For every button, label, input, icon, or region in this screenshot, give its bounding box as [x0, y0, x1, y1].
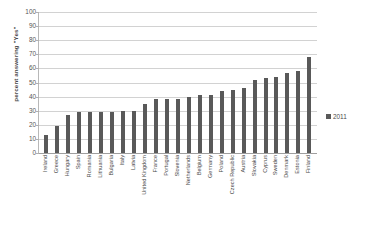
bar-slot: [74, 12, 85, 153]
bar: [44, 135, 48, 153]
x-label-slot: Slovenia: [171, 155, 182, 233]
x-label-slot: Austria: [237, 155, 248, 233]
x-axis-label: Cyprus: [262, 155, 268, 173]
bar: [209, 95, 213, 153]
x-label-slot: Cyprus: [259, 155, 270, 233]
bar-slot: [96, 12, 107, 153]
bar-slot: [304, 12, 315, 153]
x-axis-label: Lithuania: [97, 155, 103, 178]
bar: [296, 71, 300, 153]
bar-slot: [151, 12, 162, 153]
x-label-slot: Sweden: [270, 155, 281, 233]
x-label-slot: Romania: [84, 155, 95, 233]
x-label-slot: Lithuania: [95, 155, 106, 233]
bar-slot: [249, 12, 260, 153]
x-axis-label: United Kingdom: [141, 155, 147, 195]
x-label-slot: Ireland: [40, 155, 51, 233]
bar: [220, 91, 224, 153]
y-tick-100: 100: [25, 8, 36, 16]
y-tick-50: 50: [29, 79, 36, 87]
x-label-slot: Spain: [73, 155, 84, 233]
y-tick-10: 10: [29, 135, 36, 143]
y-tick-70: 70: [29, 50, 36, 58]
x-label-slot: Italy: [117, 155, 128, 233]
x-label-slot: Bulgaria: [106, 155, 117, 233]
x-axis-label: Sweden: [272, 155, 278, 175]
x-label-slot: Denmark: [281, 155, 292, 233]
bar-slot: [216, 12, 227, 153]
x-label-slot: France: [150, 155, 161, 233]
x-label-slot: Poland: [215, 155, 226, 233]
x-axis-label: Latvia: [130, 155, 136, 170]
bar-slot: [41, 12, 52, 153]
x-axis-label: Slovenia: [174, 155, 180, 176]
legend-label-2011: 2011: [333, 113, 347, 120]
bar-slot: [161, 12, 172, 153]
y-axis-tick-labels: 1009080706050403020100: [14, 8, 36, 153]
bar-slot: [140, 12, 151, 153]
bar-slot: [282, 12, 293, 153]
bar: [77, 112, 81, 153]
x-axis-label: Slovakia: [251, 155, 257, 176]
x-label-slot: Slovakia: [248, 155, 259, 233]
bar: [132, 111, 136, 153]
x-axis-label: Italy: [119, 155, 125, 165]
y-tick-80: 80: [29, 36, 36, 44]
y-tick-20: 20: [29, 121, 36, 129]
x-label-slot: Estonia: [292, 155, 303, 233]
bar: [154, 99, 158, 153]
bar-slot: [238, 12, 249, 153]
x-axis-label: Spain: [75, 155, 81, 169]
x-label-slot: Czech Republic: [226, 155, 237, 233]
bar-slot: [129, 12, 140, 153]
bar: [165, 99, 169, 153]
bar-slot: [118, 12, 129, 153]
x-axis-label: Poland: [218, 155, 224, 172]
x-axis-label: Belgium: [196, 155, 202, 175]
bar: [253, 80, 257, 153]
x-axis-label: Romania: [86, 155, 92, 177]
x-axis-label: Austria: [240, 155, 246, 172]
bar: [285, 73, 289, 153]
gridline-0: [39, 153, 317, 154]
bar-slot: [85, 12, 96, 153]
legend-swatch-2011: [326, 114, 331, 119]
x-label-slot: Hungary: [62, 155, 73, 233]
bar-chart: percent answering "Yes" 1009080706050403…: [0, 0, 368, 236]
bar: [55, 126, 59, 153]
bar-slot: [183, 12, 194, 153]
y-tickmark-0: [36, 153, 39, 154]
x-axis-label: Estonia: [294, 155, 300, 174]
x-axis-label: Portugal: [163, 155, 169, 176]
bar-slot: [260, 12, 271, 153]
x-axis-label: Czech Republic: [229, 155, 235, 194]
bar: [121, 111, 125, 153]
bar-slot: [227, 12, 238, 153]
x-axis-label: Germany: [207, 155, 213, 178]
x-axis-label: Greece: [53, 155, 59, 173]
x-label-slot: Finland: [303, 155, 314, 233]
y-tick-90: 90: [29, 22, 36, 30]
x-label-slot: United Kingdom: [139, 155, 150, 233]
x-axis-label: France: [152, 155, 158, 172]
bar: [307, 57, 311, 153]
bar-slot: [63, 12, 74, 153]
x-label-slot: Germany: [204, 155, 215, 233]
x-label-slot: Belgium: [193, 155, 204, 233]
x-label-slot: Latvia: [128, 155, 139, 233]
bar: [110, 112, 114, 153]
x-axis-category-labels: IrelandGreeceHungarySpainRomaniaLithuani…: [38, 155, 316, 233]
y-tick-60: 60: [29, 64, 36, 72]
bar: [242, 88, 246, 153]
x-label-slot: Portugal: [160, 155, 171, 233]
bar: [143, 104, 147, 153]
bar-slot: [172, 12, 183, 153]
bar: [176, 99, 180, 153]
bar: [198, 95, 202, 153]
bar-slot: [293, 12, 304, 153]
bar-slot: [205, 12, 216, 153]
x-axis-label: Denmark: [283, 155, 289, 178]
bar: [187, 97, 191, 153]
legend: 2011: [326, 113, 347, 120]
x-axis-label: Bulgaria: [108, 155, 114, 176]
